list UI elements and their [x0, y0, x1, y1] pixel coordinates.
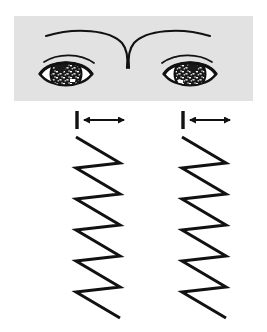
left-eye-nystagmus-trace: [76, 137, 120, 318]
eyes-illustration-svg: [14, 16, 253, 101]
right-eye-nystagmus-trace: [182, 137, 226, 318]
nystagmus-traces-layer: [0, 101, 267, 332]
eyes-photo-panel: [14, 16, 253, 101]
nystagmus-traces-svg: [0, 101, 267, 332]
amplitude-marker-left: [77, 111, 124, 129]
figure-root: [0, 0, 267, 332]
amplitude-marker-right: [183, 111, 230, 129]
eyes-illustration: [14, 16, 253, 101]
right-eye-group: [129, 31, 216, 90]
left-eye-group: [40, 31, 127, 90]
